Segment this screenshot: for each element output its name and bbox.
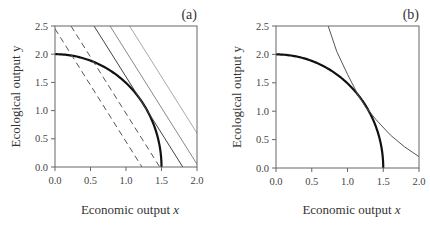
x-tick-label: 1.5 (155, 175, 168, 186)
x-axis-label: Economic output x (302, 202, 400, 217)
x-tick-label: 0.0 (269, 176, 282, 187)
y-tick-label: 0.5 (35, 133, 48, 144)
series-production-frontier (276, 54, 383, 168)
plot-area (55, 0, 233, 229)
y-tick-label: 2.0 (256, 49, 269, 60)
x-axis-label: Economic output x (81, 202, 179, 217)
y-tick-label: 1.5 (35, 77, 48, 88)
y-tick-label: 0.0 (35, 162, 48, 173)
y-tick-label: 1.0 (256, 106, 269, 117)
y-tick-label: 0.5 (256, 134, 269, 145)
panel-a: 0.00.51.01.52.00.00.51.01.52.02.5Economi… (8, 0, 233, 229)
x-tick-label: 2.0 (412, 176, 425, 187)
y-tick-label: 2.5 (35, 21, 48, 32)
chart-figure: 0.00.51.01.52.00.00.51.01.52.02.5Economi… (0, 0, 430, 229)
series-indifference-curve (328, 26, 419, 157)
panel-label: (b) (403, 7, 420, 23)
x-tick-label: 0.5 (84, 175, 97, 186)
series-iso-value-line-3-tangent- (55, 0, 233, 229)
plot-frame (55, 26, 197, 167)
series-iso-value-line-2 (55, 1, 233, 229)
panel-b: 0.00.51.01.52.00.00.51.01.52.02.5Economi… (229, 7, 426, 217)
x-tick-label: 1.0 (341, 176, 354, 187)
y-tick-label: 2.0 (35, 49, 48, 60)
y-tick-label: 1.0 (35, 105, 48, 116)
series-iso-value-line-4 (55, 0, 233, 221)
x-tick-label: 0.0 (48, 175, 61, 186)
y-axis-label: Ecological output y (229, 46, 244, 148)
y-tick-label: 1.5 (256, 77, 269, 88)
x-tick-label: 0.5 (305, 176, 318, 187)
series-production-frontier (55, 54, 162, 167)
panel-label: (a) (181, 7, 197, 23)
plot-area (276, 26, 419, 168)
y-tick-label: 2.5 (256, 21, 269, 32)
x-tick-label: 1.5 (377, 176, 390, 187)
x-tick-label: 1.0 (119, 175, 132, 186)
y-tick-label: 0.0 (256, 163, 269, 174)
y-axis-label: Ecological output y (8, 45, 23, 147)
series-iso-value-line-5 (55, 0, 233, 190)
plot-frame (276, 26, 419, 168)
x-tick-label: 2.0 (190, 175, 203, 186)
